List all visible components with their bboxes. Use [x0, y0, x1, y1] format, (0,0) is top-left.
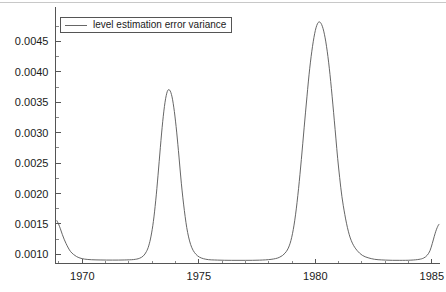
y-tick-label: 0.0045 [15, 35, 49, 47]
y-tick-label: 0.0020 [15, 188, 49, 200]
x-axis-tick-labels: 1970197519801985 [70, 270, 444, 282]
y-axis-tick-labels: 0.00100.00150.00200.00250.00300.00350.00… [15, 35, 49, 260]
x-tick-label: 1970 [70, 270, 94, 282]
x-tick-label: 1975 [187, 270, 211, 282]
series-line-level-estimation-error-variance [57, 22, 440, 260]
y-tick-label: 0.0025 [15, 157, 49, 169]
line-chart-plot: 0.00100.00150.00200.00250.00300.00350.00… [0, 0, 446, 292]
legend-label-level-estimation-error-variance: level estimation error variance [93, 20, 226, 30]
y-tick-label: 0.0040 [15, 66, 49, 78]
legend-line-swatch [65, 25, 87, 26]
x-tick-label: 1985 [420, 270, 444, 282]
y-tick-label: 0.0010 [15, 248, 49, 260]
y-tick-label: 0.0030 [15, 127, 49, 139]
x-tick-label: 1980 [303, 270, 327, 282]
chart-legend: level estimation error variance [60, 17, 232, 33]
chart-page: 0.00100.00150.00200.00250.00300.00350.00… [0, 0, 446, 292]
y-tick-label: 0.0035 [15, 96, 49, 108]
y-tick-label: 0.0015 [15, 218, 49, 230]
